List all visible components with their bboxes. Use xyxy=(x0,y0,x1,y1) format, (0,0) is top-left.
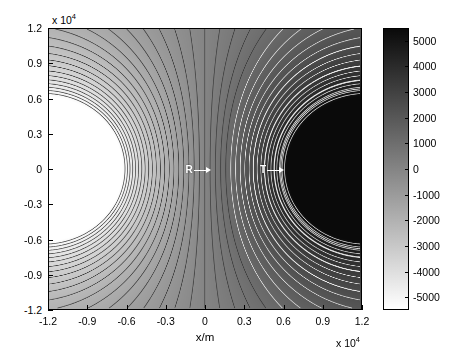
colorbar-tick-mark xyxy=(405,220,409,221)
x-tick-label: 0.6 xyxy=(262,316,306,327)
y-tick-mark xyxy=(48,169,53,170)
colorbar-tick-label: 0 xyxy=(413,164,419,175)
x-tick-label: 0.9 xyxy=(301,316,345,327)
x-tick-mark xyxy=(127,305,128,310)
colorbar: 500040003000200010000-1000-2000-3000-400… xyxy=(383,28,409,310)
x-tick-mark xyxy=(166,305,167,310)
x-tick-mark xyxy=(87,305,88,310)
colorbar-tick-mark xyxy=(405,169,409,170)
colorbar-tick-mark xyxy=(405,246,409,247)
y-tick-label: -0.9 xyxy=(4,270,42,281)
y-tick-mark xyxy=(48,275,53,276)
colorbar-tick-mark xyxy=(405,297,409,298)
y-tick-label: 0.3 xyxy=(4,129,42,140)
y-axis-exponent-mantissa: x 10 xyxy=(52,14,72,26)
y-tick-label: 0.9 xyxy=(4,58,42,69)
y-tick-label: 0.6 xyxy=(4,94,42,105)
colorbar-tick-mark xyxy=(405,66,409,67)
y-tick-label: -1.2 xyxy=(4,305,42,316)
annotation-R: R xyxy=(185,165,210,175)
y-tick-mark xyxy=(48,63,53,64)
y-axis-exponent: x 104 xyxy=(52,13,76,25)
colorbar-tick-label: 5000 xyxy=(413,36,436,47)
contour-plot-figure: x 104 R T -1.2-0.9-0.6-0.300.30.60.91.2 … xyxy=(0,0,458,358)
x-tick-label: -1.2 xyxy=(26,316,70,327)
x-axis-exponent: x 104 xyxy=(336,336,360,348)
colorbar-tick-mark xyxy=(405,195,409,196)
x-axis-exponent-mantissa: x 10 xyxy=(336,337,356,349)
y-tick-mark xyxy=(48,134,53,135)
y-axis-exponent-power: 4 xyxy=(72,12,76,21)
annotation-T: T xyxy=(260,165,284,175)
arrow-right-icon xyxy=(194,166,211,175)
colorbar-tick-mark xyxy=(405,41,409,42)
colorbar-tick-label: -4000 xyxy=(413,266,440,277)
colorbar-tick-label: -3000 xyxy=(413,241,440,252)
y-tick-label: 0 xyxy=(4,164,42,175)
y-tick-mark xyxy=(48,28,53,29)
colorbar-tick-mark xyxy=(405,92,409,93)
colorbar-tick-label: 3000 xyxy=(413,87,436,98)
y-tick-mark xyxy=(48,310,53,311)
x-tick-label: -0.6 xyxy=(105,316,149,327)
colorbar-tick-label: 1000 xyxy=(413,138,436,149)
colorbar-tick-label: -2000 xyxy=(413,215,440,226)
x-axis-label: x/m xyxy=(196,331,215,343)
x-tick-label: -0.3 xyxy=(144,316,188,327)
y-tick-mark xyxy=(48,240,53,241)
x-tick-mark xyxy=(323,305,324,310)
colorbar-tick-label: -1000 xyxy=(413,189,440,200)
x-tick-mark xyxy=(362,305,363,310)
arrow-right-icon xyxy=(267,166,284,175)
colorbar-tick-mark xyxy=(405,143,409,144)
y-tick-label: -0.6 xyxy=(4,235,42,246)
colorbar-tick-mark xyxy=(405,272,409,273)
plot-area: R T xyxy=(48,28,362,310)
x-tick-label: 1.2 xyxy=(340,316,384,327)
colorbar-tick-label: -5000 xyxy=(413,292,440,303)
colorbar-tick-label: 4000 xyxy=(413,61,436,72)
y-tick-mark xyxy=(48,204,53,205)
y-tick-label: 1.2 xyxy=(4,23,42,34)
colorbar-tick-mark xyxy=(405,118,409,119)
x-tick-mark xyxy=(205,305,206,310)
x-tick-mark xyxy=(284,305,285,310)
x-tick-mark xyxy=(48,305,49,310)
annotation-T-label: T xyxy=(260,165,266,175)
x-tick-label: 0.3 xyxy=(222,316,266,327)
y-tick-mark xyxy=(48,99,53,100)
x-tick-label: -0.9 xyxy=(65,316,109,327)
colorbar-tick-label: 2000 xyxy=(413,112,436,123)
x-axis-exponent-power: 4 xyxy=(356,335,360,344)
x-tick-mark xyxy=(244,305,245,310)
annotation-R-label: R xyxy=(185,165,192,175)
x-tick-label: 0 xyxy=(183,316,227,327)
y-tick-label: -0.3 xyxy=(4,199,42,210)
